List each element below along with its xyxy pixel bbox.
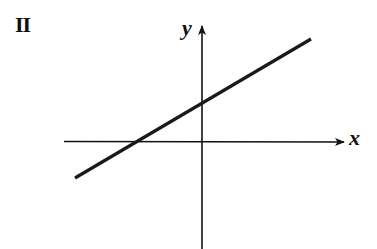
x-axis-label: x — [349, 127, 360, 149]
x-axis — [64, 142, 344, 143]
y-axis-label: y — [182, 17, 192, 39]
plotted-line — [75, 39, 311, 178]
